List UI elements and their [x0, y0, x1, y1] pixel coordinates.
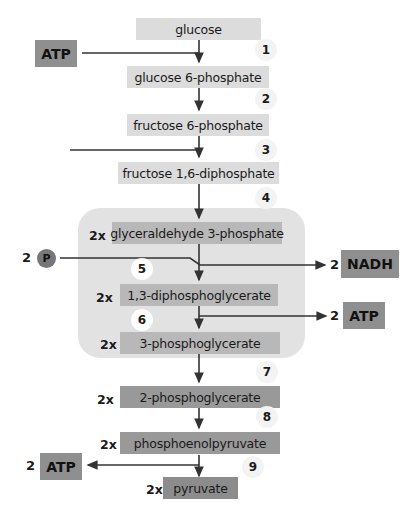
- step-badge-2: 2: [255, 88, 277, 110]
- metabolite-label: pyruvate: [173, 481, 227, 496]
- step-number: 3: [262, 143, 270, 157]
- step-badge-9: 9: [242, 456, 264, 478]
- step-badge-5: 5: [131, 258, 153, 280]
- phosphate-icon: P: [37, 249, 56, 268]
- metabolite-glucose-6-phosphate: glucose 6-phosphate: [127, 66, 269, 88]
- multiplier-3pg: 2x: [100, 337, 117, 352]
- metabolite-fructose-6-phosphate: fructose 6-phosphate: [127, 114, 269, 136]
- metabolite-phosphoenolpyruvate: phosphoenolpyruvate: [120, 432, 280, 454]
- metabolite-label: 1,3-diphosphoglycerate: [127, 288, 271, 303]
- phosphate-label: P: [42, 252, 50, 265]
- metabolite-label: fructose 1,6-diphosphate: [122, 166, 274, 181]
- step-badge-6: 6: [131, 309, 153, 331]
- atp-output-6-box: ATP: [343, 302, 385, 329]
- step-number: 5: [138, 262, 146, 276]
- step-badge-8: 8: [256, 406, 278, 428]
- step-number: 7: [263, 365, 271, 379]
- atp-label: ATP: [46, 459, 76, 475]
- atp-output-9-coefficient: 2: [26, 458, 35, 473]
- atp-label: ATP: [41, 46, 71, 62]
- metabolite-label: 2-phosphoglycerate: [139, 390, 260, 405]
- step-number: 8: [263, 410, 271, 424]
- step-badge-4: 4: [255, 187, 277, 209]
- nadh-coefficient: 2: [330, 257, 339, 272]
- multiplier-pyruvate: 2x: [146, 482, 163, 497]
- metabolite-label: glucose: [175, 22, 222, 37]
- metabolite-label: phosphoenolpyruvate: [134, 436, 267, 451]
- step-badge-7: 7: [256, 361, 278, 383]
- step-number: 4: [262, 191, 270, 205]
- multiplier-2pg: 2x: [97, 392, 114, 407]
- atp-label: ATP: [349, 308, 379, 324]
- metabolite-1-3-diphosphoglycerate: 1,3-diphosphoglycerate: [120, 284, 278, 306]
- metabolite-label: fructose 6-phosphate: [133, 118, 263, 133]
- step-number: 2: [262, 92, 270, 106]
- multiplier-pep: 2x: [100, 437, 117, 452]
- nadh-label: NADH: [347, 256, 393, 272]
- metabolite-glucose: glucose: [136, 18, 261, 40]
- metabolite-pyruvate: pyruvate: [163, 477, 238, 499]
- step-badge-3: 3: [255, 139, 277, 161]
- metabolite-label: glucose 6-phosphate: [135, 70, 262, 85]
- metabolite-fructose-1-6-diphosphate: fructose 1,6-diphosphate: [118, 162, 279, 184]
- step-badge-1: 1: [255, 39, 277, 61]
- metabolite-label: 3-phosphoglycerate: [139, 336, 260, 351]
- metabolite-3-phosphoglycerate: 3-phosphoglycerate: [120, 332, 280, 354]
- metabolite-label: glyceraldehyde 3-phosphate: [110, 226, 284, 241]
- phosphate-coefficient: 2: [22, 250, 31, 265]
- atp-output-9-box: ATP: [40, 453, 82, 480]
- step-number: 9: [249, 460, 257, 474]
- step-number: 6: [138, 313, 146, 327]
- step-number: 1: [262, 43, 270, 57]
- atp-output-6-coefficient: 2: [330, 308, 339, 323]
- nadh-output-box: NADH: [341, 250, 399, 278]
- atp-input-box: ATP: [35, 40, 77, 67]
- metabolite-glyceraldehyde-3-phosphate: glyceraldehyde 3-phosphate: [112, 222, 282, 244]
- multiplier-bpg: 2x: [96, 290, 113, 305]
- multiplier-g3p: 2x: [89, 228, 106, 243]
- metabolite-2-phosphoglycerate: 2-phosphoglycerate: [120, 386, 280, 408]
